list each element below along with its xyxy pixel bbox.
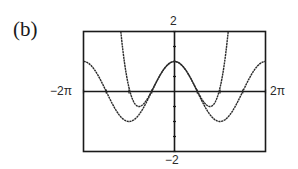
graph-plot	[0, 0, 298, 169]
